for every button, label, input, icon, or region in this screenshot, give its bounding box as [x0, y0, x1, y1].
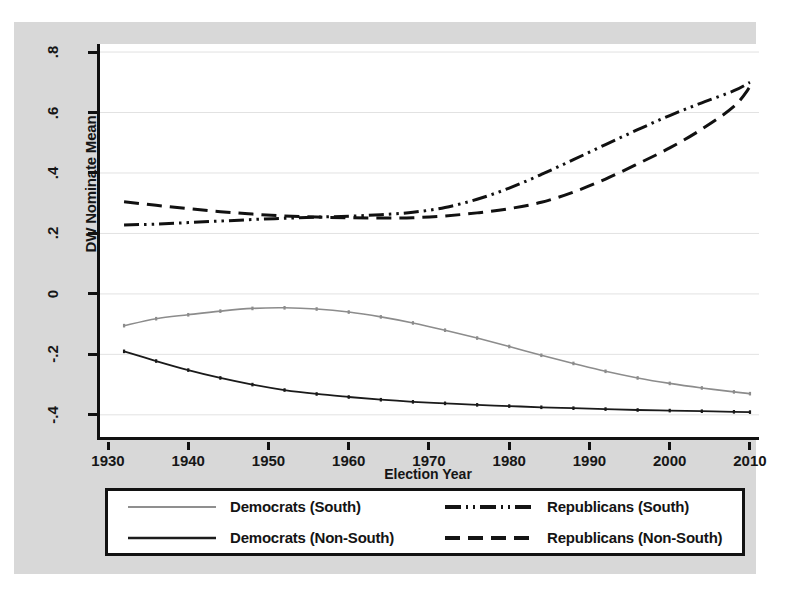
y-tick-label: .4 [45, 144, 61, 202]
y-tick-mark [88, 51, 97, 54]
series-line-2 [124, 82, 750, 225]
data-point-marker [316, 392, 318, 396]
data-point-marker [283, 306, 285, 310]
data-point-marker [283, 388, 285, 392]
legend-item-republicans-south: Republicans (South) [425, 498, 742, 515]
data-point-marker [187, 313, 189, 317]
figure-root: DW Nominate Mean .8.6.4.20-.2-.4 1930194… [0, 0, 785, 595]
data-point-marker [187, 368, 189, 372]
x-tick-mark [427, 442, 430, 450]
x-tick-mark [508, 442, 511, 450]
legend-grid: Democrats (South) Republicans (South) De… [108, 491, 742, 553]
y-tick-mark [88, 171, 97, 174]
data-point-marker [572, 406, 574, 410]
y-tick-mark [88, 232, 97, 235]
y-axis-tick-labels: .8.6.4.20-.2-.4 [14, 44, 97, 440]
data-point-marker [508, 345, 510, 349]
y-tick-mark [88, 353, 97, 356]
legend-label: Democrats (Non-South) [230, 529, 394, 546]
data-point-marker [476, 403, 478, 407]
data-point-marker [251, 383, 253, 387]
plot-panel [97, 44, 759, 440]
legend-item-democrats-south: Democrats (South) [108, 498, 425, 515]
y-tick-label-wrap: .4 [24, 165, 82, 181]
y-tick-label-wrap: 0 [24, 286, 82, 302]
data-point-marker [380, 315, 382, 319]
data-point-marker [444, 328, 446, 332]
legend-item-republicans-nonsouth: Republicans (Non-South) [425, 529, 742, 546]
y-tick-label-wrap: .2 [24, 225, 82, 241]
data-point-marker [749, 392, 751, 396]
data-point-marker [123, 324, 125, 328]
y-tick-mark [88, 413, 97, 416]
series-line-3 [124, 87, 750, 218]
data-point-marker [155, 317, 157, 321]
data-point-marker [701, 409, 703, 413]
data-point-marker [316, 307, 318, 311]
data-point-marker [412, 400, 414, 404]
data-point-marker [604, 407, 606, 411]
data-point-marker [348, 310, 350, 314]
solid-dark-line-key [126, 531, 218, 545]
legend-label: Republicans (Non-South) [547, 529, 722, 546]
dash-dot-dot-line-key [443, 500, 535, 514]
x-tick-mark [267, 442, 270, 450]
data-point-marker [219, 376, 221, 380]
y-tick-label-wrap: .6 [24, 105, 82, 121]
data-point-marker [749, 410, 751, 414]
x-axis-tick-labels: 193019401950196019701980199020002010 [97, 442, 759, 468]
data-point-marker [380, 398, 382, 402]
y-tick-mark [88, 292, 97, 295]
x-tick-mark [588, 442, 591, 450]
data-point-marker [219, 309, 221, 313]
data-point-marker [604, 370, 606, 374]
chart-legend: Democrats (South) Republicans (South) De… [105, 488, 745, 556]
data-point-marker [123, 350, 125, 354]
y-tick-label-wrap: -.4 [24, 407, 82, 423]
data-point-marker [733, 390, 735, 394]
y-tick-label: .8 [45, 23, 61, 81]
y-tick-mark [88, 111, 97, 114]
chart-container: DW Nominate Mean .8.6.4.20-.2-.4 1930194… [14, 22, 756, 574]
data-point-marker [155, 359, 157, 363]
data-point-marker [637, 408, 639, 412]
data-point-marker [476, 336, 478, 340]
data-point-marker [733, 410, 735, 414]
data-point-marker [251, 307, 253, 311]
data-point-marker [572, 362, 574, 366]
data-point-marker [540, 405, 542, 409]
solid-light-line-key [126, 500, 218, 514]
dashed-line-key [443, 531, 535, 545]
data-point-marker [444, 402, 446, 406]
data-point-marker [701, 386, 703, 390]
y-tick-label: .6 [45, 84, 61, 142]
data-point-marker [540, 353, 542, 357]
x-tick-mark [347, 442, 350, 450]
x-tick-mark [748, 442, 751, 450]
data-point-marker [412, 321, 414, 325]
y-tick-label: -.4 [45, 386, 61, 444]
series-line-0 [124, 308, 750, 394]
data-point-marker [508, 404, 510, 408]
y-tick-label: 0 [45, 265, 61, 323]
legend-item-democrats-nonsouth: Democrats (Non-South) [108, 529, 425, 546]
y-tick-label-wrap: .8 [24, 44, 82, 60]
x-tick-mark [107, 442, 110, 450]
plot-svg [97, 44, 759, 440]
legend-label: Democrats (South) [230, 498, 361, 515]
data-point-marker [669, 409, 671, 413]
x-tick-mark [187, 442, 190, 450]
data-point-marker [637, 376, 639, 380]
y-tick-label: .2 [45, 204, 61, 262]
x-axis-title: Election Year [97, 466, 759, 482]
y-tick-label: -.2 [45, 325, 61, 383]
y-tick-label-wrap: -.2 [24, 346, 82, 362]
data-point-marker [669, 382, 671, 386]
x-tick-mark [668, 442, 671, 450]
legend-label: Republicans (South) [547, 498, 689, 515]
data-point-marker [348, 395, 350, 399]
